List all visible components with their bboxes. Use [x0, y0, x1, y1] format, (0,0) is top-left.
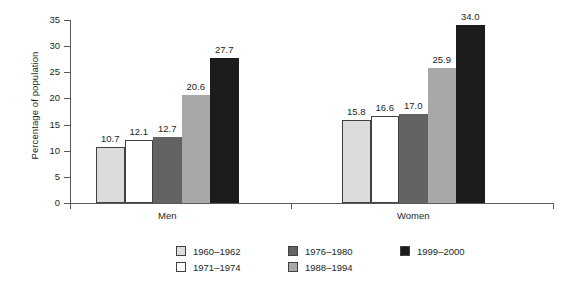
y-tick-label-20: 20 — [40, 93, 60, 103]
legend-item[interactable]: 1988–1994 — [288, 259, 353, 275]
y-tick-label-10: 10 — [40, 146, 60, 156]
legend-label: 1976–1980 — [305, 246, 353, 257]
bar — [125, 140, 154, 203]
y-tick-label-15: 15 — [40, 120, 60, 130]
legend-label: 1960–1962 — [193, 246, 241, 257]
y-tick-label-30: 30 — [40, 41, 60, 51]
legend-label: 1971–1974 — [193, 262, 241, 273]
legend-swatch-icon — [400, 246, 410, 256]
bar — [399, 114, 428, 203]
y-tick-label-0: 0 — [40, 198, 60, 208]
y-axis-title: Percentage of population — [29, 6, 40, 206]
legend-swatch-icon — [176, 246, 186, 256]
legend-swatch-icon — [288, 262, 298, 272]
legend-item[interactable]: 1960–1962 — [176, 243, 241, 259]
y-tick-30 — [64, 46, 70, 47]
bar — [153, 137, 182, 203]
y-tick-5 — [64, 177, 70, 178]
bar — [182, 95, 211, 203]
x-axis-mid-tick — [291, 203, 292, 209]
legend-column-1: 1960–19621971–1974 — [176, 243, 241, 275]
y-tick-20 — [64, 98, 70, 99]
y-tick-label-5: 5 — [40, 172, 60, 182]
y-tick-10 — [64, 151, 70, 152]
bar — [210, 58, 239, 203]
legend-item[interactable]: 1971–1974 — [176, 259, 241, 275]
bar — [371, 116, 400, 203]
y-tick-15 — [64, 125, 70, 126]
x-group-label-men: Men — [122, 210, 212, 221]
legend-label: 1999–2000 — [417, 246, 465, 257]
legend-column-2: 1976–19801988–1994 — [288, 243, 353, 275]
x-group-label-women: Women — [368, 210, 458, 221]
y-tick-label-35: 35 — [40, 15, 60, 25]
bar-chart: Percentage of population 05101520253035 … — [0, 0, 575, 287]
bar — [96, 147, 125, 203]
legend-item[interactable]: 1999–2000 — [400, 243, 465, 259]
legend-item[interactable]: 1976–1980 — [288, 243, 353, 259]
bar-value-label: 34.0 — [450, 12, 490, 22]
legend-label: 1988–1994 — [305, 262, 353, 273]
y-tick-35 — [64, 20, 70, 21]
bar — [428, 68, 457, 203]
bar-value-label: 27.7 — [204, 45, 244, 55]
x-axis-end-tick — [553, 203, 554, 209]
y-axis-line — [70, 20, 71, 204]
x-axis-line — [70, 203, 553, 204]
legend-swatch-icon — [176, 262, 186, 272]
x-axis-start-tick — [70, 203, 71, 209]
bar — [456, 25, 485, 203]
y-tick-label-25: 25 — [40, 67, 60, 77]
legend-column-3: 1999–2000 — [400, 243, 465, 259]
y-tick-25 — [64, 72, 70, 73]
legend-swatch-icon — [288, 246, 298, 256]
bar — [342, 120, 371, 203]
